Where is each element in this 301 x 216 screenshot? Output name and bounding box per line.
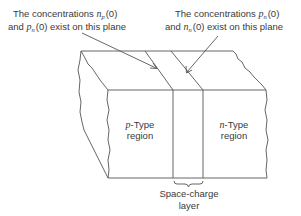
left-annotation-line2: and pn(0) exist on this plane xyxy=(8,21,126,33)
n-region-label-line1: n-Type xyxy=(220,119,249,130)
layer-right-plane-top xyxy=(171,51,203,90)
right-pointer-line xyxy=(187,36,218,72)
p-region-label-line1: p-Type xyxy=(125,119,155,130)
left-inner-wavy-edge xyxy=(81,51,108,90)
left-pointer-line xyxy=(82,33,156,68)
n-region-label-line2: region xyxy=(221,130,247,141)
layer-left-plane-top xyxy=(145,51,173,90)
front-right-wavy-edge xyxy=(265,90,268,178)
pn-junction-diagram: The concentrations np(0) and pn(0) exist… xyxy=(0,0,301,216)
right-annotation-line2: and nn(0) exist on this plane xyxy=(165,21,283,33)
front-left-wavy-edge xyxy=(107,90,110,178)
right-annotation-line1: The concentrations pn(0) xyxy=(175,8,279,20)
layer-label-line2: layer xyxy=(179,200,200,211)
layer-brace xyxy=(174,181,203,187)
p-region-label-line2: region xyxy=(127,130,153,141)
layer-label-line1: Space-charge xyxy=(159,188,218,199)
top-right-wavy-edge xyxy=(233,51,266,90)
left-annotation-line1: The concentrations np(0) xyxy=(13,8,117,20)
